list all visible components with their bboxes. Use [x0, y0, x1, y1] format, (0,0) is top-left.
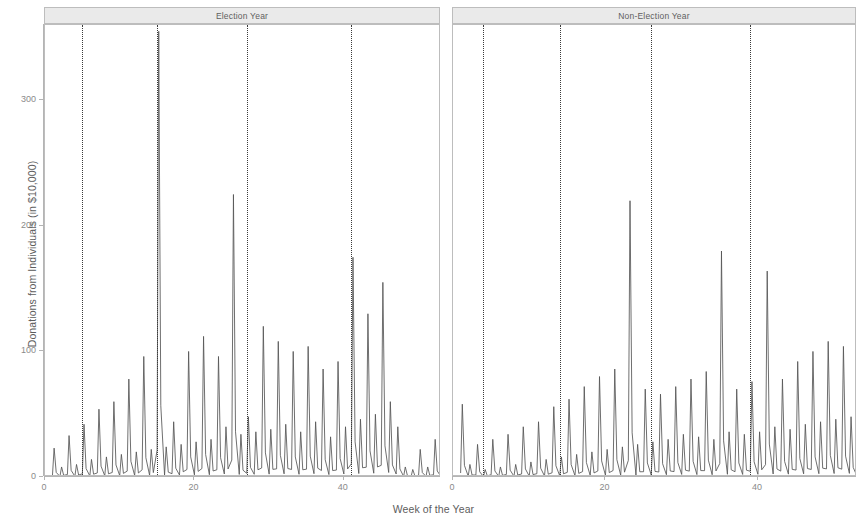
x-tick-label: 0 [449, 482, 454, 492]
reference-line [351, 25, 352, 475]
strip-label-election-year: Election Year [216, 11, 268, 21]
x-tick-label: 20 [188, 482, 198, 492]
x-axis-election-year: 02040 [44, 476, 440, 500]
x-axis-non-election-year: 02040 [452, 476, 856, 500]
x-tick-label: 0 [41, 482, 46, 492]
x-axis-line [44, 476, 440, 477]
reference-line [82, 25, 83, 475]
y-tick-mark [39, 476, 43, 477]
data-line [461, 201, 856, 476]
reference-line [483, 25, 484, 475]
panel-non-election-year [452, 24, 856, 476]
panel-election-year [44, 24, 440, 476]
x-tick-mark [44, 476, 45, 480]
chart-figure: Donations from Individuals (in $10,000) … [0, 0, 867, 522]
strip-non-election-year: Non-Election Year [452, 7, 856, 24]
x-axis-line [452, 476, 856, 477]
x-axis-label: Week of the Year [0, 503, 867, 515]
y-tick-label: 300 [21, 94, 36, 104]
reference-line [750, 25, 751, 475]
x-tick-label: 20 [599, 482, 609, 492]
reference-line [560, 25, 561, 475]
series-line-election-year [45, 25, 440, 476]
x-tick-label: 40 [338, 482, 348, 492]
series-line-non-election-year [453, 25, 856, 476]
x-tick-mark [452, 476, 453, 480]
reference-line [651, 25, 652, 475]
reference-line [157, 25, 158, 475]
x-tick-label: 40 [752, 482, 762, 492]
y-tick-label: 200 [21, 220, 36, 230]
y-axis-label: Donations from Individuals (in $10,000) [26, 104, 38, 404]
strip-election-year: Election Year [44, 7, 440, 24]
x-tick-mark [343, 476, 344, 480]
x-tick-mark [193, 476, 194, 480]
y-tick-label: 0 [31, 471, 36, 481]
y-tick-label: 100 [21, 345, 36, 355]
strip-label-non-election-year: Non-Election Year [618, 11, 689, 21]
reference-line [247, 25, 248, 475]
x-tick-mark [757, 476, 758, 480]
x-tick-mark [604, 476, 605, 480]
